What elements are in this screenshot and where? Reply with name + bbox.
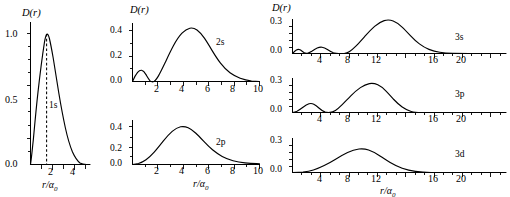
xtick-label-3d-12: 12: [371, 174, 381, 184]
curve-3p: [293, 83, 507, 112]
xtick-label-3d-16: 16: [428, 174, 438, 184]
xtick-label-3d-4: 4: [317, 174, 322, 184]
xtick-label-3s-20: 20: [456, 55, 466, 65]
orbital-label-3p: 3p: [455, 90, 465, 100]
orbital-label-1s: 1s: [49, 101, 57, 111]
xtick-label-1s-2: 2: [48, 167, 53, 177]
xtick-label-3p-20: 20: [456, 114, 466, 124]
xtick-label-3d-8: 8: [345, 174, 350, 184]
orbital-label-3d: 3d: [455, 150, 465, 160]
xaxis-title-1s: r/α0: [42, 180, 57, 193]
xtick-label-2s-2: 2: [154, 84, 159, 94]
xtick-label-3s-16: 16: [428, 55, 438, 65]
xtick-label-1s-4: 4: [70, 167, 75, 177]
xtick-label-3p-8: 8: [345, 114, 350, 124]
ytick-marks-1s: [27, 34, 31, 152]
orbital-label-3s: 3s: [455, 33, 463, 43]
xtick-label-3p-4: 4: [317, 114, 322, 124]
xtick-label-2p-6: 6: [205, 166, 210, 176]
xtick-label-2p-8: 8: [230, 166, 235, 176]
curve-2p: [133, 127, 260, 165]
xtick-label-3p-12: 12: [371, 114, 381, 124]
xtick-label-2s-6: 6: [205, 84, 210, 94]
xaxis-title-2p: r/α0: [193, 179, 208, 192]
panel-3s: D(r) 0.3 0.0: [272, 0, 510, 64]
xtick-label-2s-4: 4: [179, 84, 184, 94]
panel-3p: 0.3 0.0: [272, 65, 510, 129]
xtick-label-2p-4: 4: [179, 166, 184, 176]
plot-area-2s: [108, 0, 268, 100]
ytick-marks-2s: [129, 31, 133, 69]
xtick-label-2s-8: 8: [230, 84, 235, 94]
xtick-marks-3d: [302, 173, 500, 177]
xaxis-title-3d: r/α0: [380, 186, 395, 197]
xtick-label-3s-4: 4: [317, 55, 322, 65]
xtick-marks-2p: [145, 165, 259, 169]
panel-2s: D(r) 0.4 0.2 0.0: [108, 0, 268, 100]
panel-1s: D(r) 1.0 0.5 0.0: [0, 0, 100, 197]
ytick-marks-2p: [129, 127, 133, 157]
xtick-label-3s-12: 12: [371, 55, 381, 65]
curve-2s: [133, 28, 260, 82]
plot-area-3s: [272, 0, 510, 64]
curve-3s: [293, 20, 507, 53]
xtick-label-2s-10: 10: [253, 84, 263, 94]
orbital-label-2s: 2s: [216, 38, 224, 48]
xtick-label-2p-2: 2: [154, 166, 159, 176]
curve-1s: [31, 34, 91, 164]
xtick-marks-3s: [302, 54, 500, 58]
xtick-marks-2s: [145, 82, 259, 87]
xtick-label-2p-10: 10: [253, 166, 263, 176]
xtick-label-3d-20: 20: [456, 174, 466, 184]
radial-distribution-figure: D(r) 1.0 0.5 0.0: [0, 0, 510, 197]
plot-area-3p: [272, 65, 510, 129]
panel-3d: 0.3 0.0: [272, 128, 510, 197]
xtick-label-3s-8: 8: [345, 55, 350, 65]
plot-area-2p: [108, 100, 268, 197]
xtick-label-3p-16: 16: [428, 114, 438, 124]
panel-2p: 0.4 0.2 0.0: [108, 100, 268, 197]
xtick-marks-3p: [302, 113, 500, 117]
orbital-label-2p: 2p: [216, 138, 226, 148]
curve-3d: [293, 149, 507, 173]
